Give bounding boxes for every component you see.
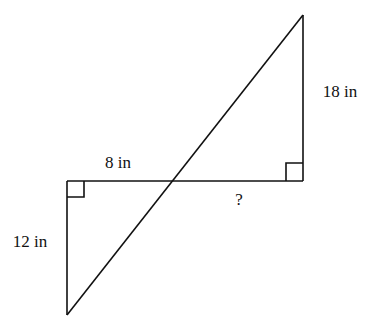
label-12in: 12 in <box>13 232 48 251</box>
label-8in: 8 in <box>105 153 131 172</box>
label-unknown: ? <box>235 190 243 209</box>
transversal-line <box>67 15 303 315</box>
right-angle-marker-left <box>67 181 84 197</box>
right-angle-marker-right <box>286 163 303 181</box>
label-18in: 18 in <box>323 82 358 101</box>
diagram-canvas: 8 in 12 in 18 in ? <box>0 0 383 334</box>
